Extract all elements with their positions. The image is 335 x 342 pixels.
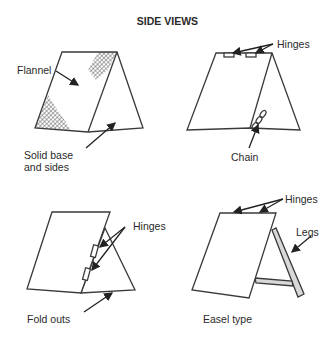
flannel-label: Flannel (17, 64, 51, 76)
fold-out-board-drawing (27, 212, 135, 293)
easel-type-label: Easel type (203, 313, 252, 325)
legs-label: Legs (296, 226, 319, 238)
side-views-diagram: SIDE VIEWS (0, 0, 335, 342)
solid-base-label-line1: Solid base (24, 149, 73, 161)
fold-outs-label: Fold outs (27, 313, 70, 325)
hinges-label-bottom-right: Hinges (285, 193, 318, 205)
hinged-chain-board-drawing (187, 53, 300, 131)
hinges-label-bottom-left: Hinges (133, 220, 166, 232)
annotation-arrows (56, 44, 311, 312)
hinges-label-top-right: Hinges (277, 38, 310, 50)
chain-label: Chain (231, 151, 258, 163)
easel-board-drawing (192, 213, 304, 298)
solid-base-label-line2: and sides (24, 161, 69, 173)
